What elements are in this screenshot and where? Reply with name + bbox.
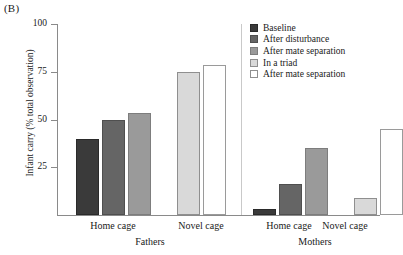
x-group-label-mothers: Mothers: [275, 236, 355, 247]
legend-label-in-a-triad: In a triad: [263, 58, 297, 68]
group-separator: [241, 24, 242, 215]
legend-swatch-in-a-triad: [250, 59, 258, 67]
legend-swatch-after-mate-separation-white: [250, 70, 258, 78]
legend-item-baseline: Baseline: [250, 22, 386, 34]
bar-fathers-novel-after-mate-separation: [203, 65, 226, 215]
legend-item-after-mate-separation-white: After mate separation: [250, 68, 386, 80]
y-axis-label: Infant carry (% total observation): [25, 13, 35, 213]
x-axis-line: [57, 215, 380, 216]
bar-fathers-novel-in-a-triad: [177, 72, 200, 215]
bar-mothers-home-after-disturbance: [279, 184, 302, 215]
legend: Baseline After disturbance After mate se…: [250, 22, 386, 80]
bar-fathers-home-after-mate-separation: [128, 113, 151, 215]
panel-label: (B): [4, 2, 19, 14]
legend-item-after-disturbance: After disturbance: [250, 34, 386, 46]
x-label-mothers-novel-cage: Novel cage: [305, 220, 385, 231]
legend-swatch-baseline: [250, 24, 258, 32]
legend-swatch-after-mate-separation-gray: [250, 47, 258, 55]
bar-mothers-novel-in-a-triad: [354, 198, 377, 215]
legend-label-after-mate-separation-white: After mate separation: [263, 69, 345, 79]
bar-fathers-home-after-disturbance: [102, 120, 125, 216]
x-group-label-fathers: Fathers: [110, 236, 190, 247]
bar-mothers-novel-after-mate-separation: [380, 129, 403, 215]
legend-swatch-after-disturbance: [250, 35, 258, 43]
bar-mothers-home-baseline: [253, 209, 276, 215]
legend-label-after-disturbance: After disturbance: [263, 34, 329, 44]
legend-label-after-mate-separation-gray: After mate separation: [263, 46, 345, 56]
x-label-fathers-home-cage: Home cage: [73, 220, 153, 231]
bar-fathers-home-baseline: [76, 139, 99, 215]
x-label-fathers-novel-cage: Novel cage: [161, 220, 241, 231]
bar-mothers-home-after-mate-separation: [305, 148, 328, 215]
legend-label-baseline: Baseline: [263, 23, 296, 33]
legend-item-in-a-triad: In a triad: [250, 57, 386, 69]
legend-item-after-mate-separation-gray: After mate separation: [250, 45, 386, 57]
